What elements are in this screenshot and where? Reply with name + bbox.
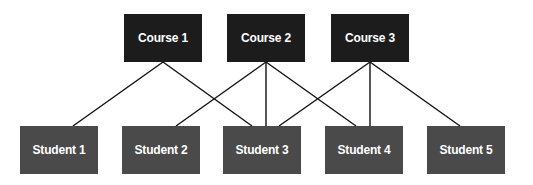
course-label: Course 3 [345,31,395,45]
edge-line [163,62,252,126]
edge-line [266,62,356,126]
student-node-1: Student 1 [20,126,98,174]
course-node-1: Course 1 [124,14,202,62]
student-label: Student 4 [338,143,391,157]
course-student-diagram: Course 1 Course 2 Course 3 Student 1 Stu… [0,0,533,185]
edge-line [73,62,163,126]
course-node-3: Course 3 [331,14,409,62]
edge-line [176,62,266,126]
student-node-2: Student 2 [122,126,200,174]
course-label: Course 1 [138,31,188,45]
student-label: Student 3 [236,143,289,157]
course-node-2: Course 2 [227,14,305,62]
student-label: Student 5 [440,143,493,157]
student-label: Student 2 [135,143,188,157]
student-label: Student 1 [33,143,86,157]
edge-line [279,62,370,126]
student-node-5: Student 5 [427,126,505,174]
student-node-4: Student 4 [325,126,403,174]
course-label: Course 2 [241,31,291,45]
student-node-3: Student 3 [223,126,301,174]
edge-line [370,62,460,126]
